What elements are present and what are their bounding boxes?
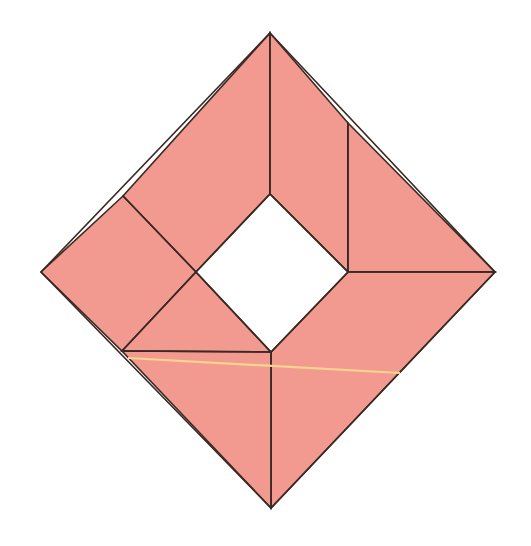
folded-square-diagram <box>0 0 531 546</box>
figure-root <box>0 0 531 546</box>
crease-lower-left-horizontal <box>122 351 271 352</box>
